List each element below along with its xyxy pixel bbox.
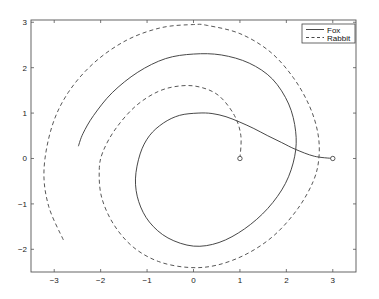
y-tick-label: 2	[23, 64, 28, 73]
legend: Fox Rabbit	[302, 24, 355, 43]
x-tick-label: −2	[96, 276, 106, 285]
y-tick-label: 0	[23, 154, 28, 163]
pursuit-chart: −3−2−10123 −2−10123 Fox Rabbit	[0, 0, 379, 299]
y-tick-label: −1	[18, 200, 28, 209]
y-tick-label: 3	[23, 18, 28, 27]
fox-start-marker	[331, 156, 335, 160]
plot-area: −3−2−10123 −2−10123	[18, 18, 356, 285]
x-tick-label: 2	[284, 276, 289, 285]
legend-rabbit-label: Rabbit	[327, 34, 351, 43]
x-tick-label: 3	[331, 276, 336, 285]
x-tick-label: −3	[50, 276, 60, 285]
axes-box	[31, 20, 356, 272]
y-tick-label: −2	[18, 245, 28, 254]
x-tick-label: −1	[143, 276, 153, 285]
x-tick-label: 1	[238, 276, 243, 285]
y-tick-label: 1	[23, 109, 28, 118]
x-tick-label: 0	[191, 276, 196, 285]
rabbit-start-marker	[238, 156, 242, 160]
